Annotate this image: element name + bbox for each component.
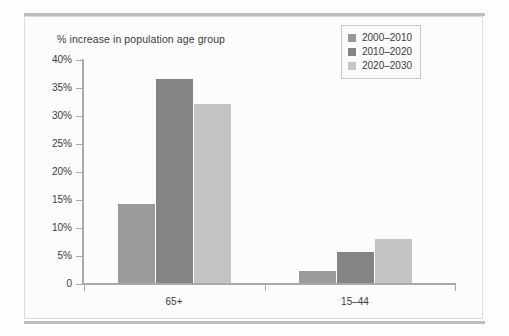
y-axis-tick xyxy=(76,144,82,145)
y-axis-tick-label: 40% xyxy=(38,55,72,65)
y-axis-tick xyxy=(76,116,82,117)
y-axis-tick-label: 15% xyxy=(38,195,72,205)
y-axis-tick-label: 30% xyxy=(38,111,72,121)
bar xyxy=(194,104,231,284)
legend-item-label: 2010–2020 xyxy=(362,47,412,57)
x-axis-tick xyxy=(265,285,266,291)
chart-legend: 2000–2010 2010–2020 2020–2030 xyxy=(341,25,421,79)
legend-item: 2000–2010 xyxy=(348,31,412,45)
legend-swatch-icon xyxy=(348,62,356,70)
y-axis-tick-label: 0 xyxy=(38,279,72,289)
y-axis-tick-label: 10% xyxy=(38,223,72,233)
y-axis-tick-label: 5% xyxy=(38,251,72,261)
y-axis-tick-label: 25% xyxy=(38,139,72,149)
y-axis-tick xyxy=(76,228,82,229)
x-axis-category-label: 15–44 xyxy=(341,296,369,307)
chart-title: % increase in population age group xyxy=(57,33,225,45)
x-axis-category-label: 65+ xyxy=(166,296,183,307)
y-axis-tick-label: 20% xyxy=(38,167,72,177)
legend-item-label: 2000–2010 xyxy=(362,33,412,43)
y-axis-tick xyxy=(76,88,82,89)
y-axis-line xyxy=(82,59,84,284)
legend-item: 2020–2030 xyxy=(348,59,412,73)
legend-item: 2010–2020 xyxy=(348,45,412,59)
legend-swatch-icon xyxy=(348,34,356,42)
figure-container: % increase in population age group 05%10… xyxy=(0,0,509,336)
y-axis-tick xyxy=(76,60,82,61)
bar xyxy=(156,79,193,284)
x-axis-tick xyxy=(455,285,456,291)
bar xyxy=(337,252,374,284)
y-axis-tick xyxy=(76,200,82,201)
x-axis-line xyxy=(82,283,456,285)
page-rule-bottom xyxy=(24,321,485,324)
y-axis-tick xyxy=(76,172,82,173)
y-axis-tick-label: 35% xyxy=(38,83,72,93)
x-axis-tick xyxy=(84,285,85,291)
legend-swatch-icon xyxy=(348,48,356,56)
legend-item-label: 2020–2030 xyxy=(362,61,412,71)
bar xyxy=(375,239,412,284)
y-axis-tick xyxy=(76,256,82,257)
bar xyxy=(118,204,155,284)
